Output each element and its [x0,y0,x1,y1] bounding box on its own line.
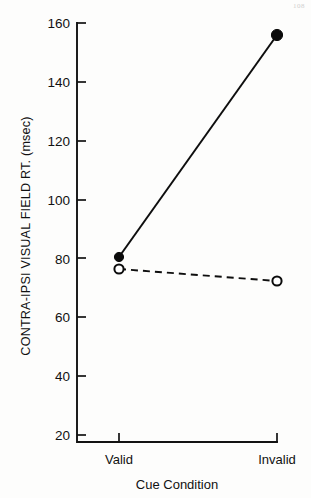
x-tick-label-valid: Valid [105,452,133,467]
y-tick-label-120: 120 [47,134,70,149]
data-point-open-valid [114,264,123,273]
figure-container: CONTRA-IPSI VISUAL FIELD RT. (msec) 160 … [0,0,311,498]
y-tick-label-80: 80 [55,252,70,267]
series-solid-line [119,35,277,257]
data-point-filled-invalid [271,29,282,40]
x-tick-label-invalid: Invalid [258,452,296,467]
data-point-filled-valid [114,252,123,261]
x-axis-title: Cue Condition [136,477,218,492]
series-dashed-line [119,269,277,281]
line-chart: CONTRA-IPSI VISUAL FIELD RT. (msec) 160 … [0,0,311,498]
y-tick-label-160: 160 [47,16,70,31]
y-tick-label-100: 100 [47,193,70,208]
y-tick-label-140: 140 [47,75,70,90]
y-tick-label-60: 60 [55,310,70,325]
y-tick-label-20: 20 [55,428,70,443]
axis-lines [77,23,277,442]
y-tick-label-40: 40 [55,369,70,384]
data-point-open-invalid [272,276,281,285]
y-axis-title: CONTRA-IPSI VISUAL FIELD RT. (msec) [19,116,33,355]
